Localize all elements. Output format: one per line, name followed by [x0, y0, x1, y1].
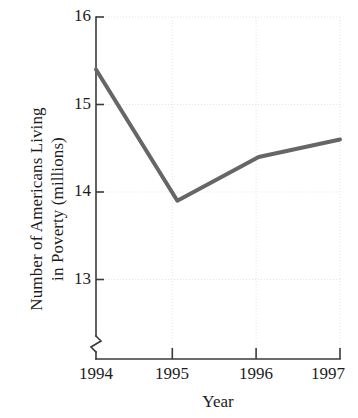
ytick-label-16: 16	[57, 6, 91, 26]
xtick-label-1997: 1997	[298, 364, 358, 384]
x-axis-title: Year	[96, 392, 340, 412]
y-axis-title-line-1: Number of Americans Living	[26, 54, 47, 364]
y-axis-break-icon	[91, 336, 101, 352]
gridlines	[96, 17, 340, 359]
axis-spines	[91, 17, 340, 359]
xtick-label-1996: 1996	[226, 364, 286, 384]
data-line-poverty	[96, 70, 340, 201]
chart-figure: 16 15 14 13 1994 1995 1996 1997 Number o…	[0, 0, 358, 418]
tick-marks	[96, 17, 340, 359]
y-axis-title: Number of Americans Living in Poverty (m…	[26, 54, 68, 364]
xtick-label-1995: 1995	[142, 364, 202, 384]
xtick-label-1994: 1994	[66, 364, 126, 384]
y-axis-title-line-2: in Poverty (millions)	[47, 54, 68, 364]
